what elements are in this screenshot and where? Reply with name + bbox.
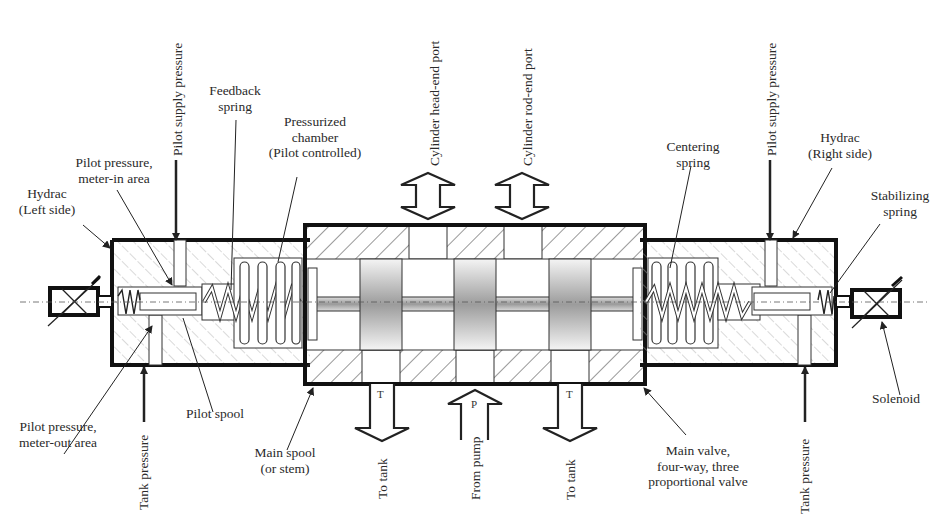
label-main-spool: Main spool (or stem) (248, 445, 322, 476)
label-cylinder-head-port: Cylinder head-end port (427, 41, 442, 166)
label-tank-pressure-left: Tank pressure (136, 435, 151, 510)
label-line: Feedback (203, 83, 267, 99)
label-line: Main spool (248, 445, 322, 461)
label-line: spring (203, 99, 267, 115)
label-line: Stabilizing (860, 188, 940, 204)
label-line: Pilot pressure, (58, 155, 170, 171)
label-to-tank-right: To tank (563, 459, 578, 500)
label-tank-pressure-right: Tank pressure (797, 439, 812, 514)
label-line: Pilot pressure, (8, 419, 108, 435)
label-hydrac-right: Hydrac (Right side) (800, 130, 880, 161)
label-pilot-meter-out: Pilot pressure, meter-out area (8, 419, 108, 450)
label-pressurized-chamber: Pressurized chamber (Pilot controlled) (260, 114, 370, 161)
label-line: meter-out area (8, 435, 108, 451)
hydrac-left-body (48, 240, 310, 365)
label-to-tank-left: To tank (375, 458, 390, 499)
label-line: (Right side) (800, 146, 880, 162)
label-line: Pressurized (260, 114, 370, 130)
label-line: Hydrac (800, 130, 880, 146)
label-main-valve: Main valve, four-way, three proportional… (636, 443, 760, 490)
label-line: meter-in area (58, 171, 170, 187)
hydrac-right-body (640, 240, 902, 365)
label-line: (Left side) (12, 202, 82, 218)
label-pilot-spool: Pilot spool (180, 406, 250, 422)
label-hydrac-left: Hydrac (Left side) (12, 186, 82, 217)
label-from-pump: From pump (468, 437, 483, 500)
label-line: spring (860, 204, 940, 220)
label-feedback-spring: Feedback spring (203, 83, 267, 114)
label-line: Hydrac (12, 186, 82, 202)
label-line: spring (658, 155, 728, 171)
port-pump: P (471, 398, 477, 410)
label-centering-spring: Centering spring (658, 139, 728, 170)
label-line: Main valve, (636, 443, 760, 459)
label-pilot-meter-in: Pilot pressure, meter-in area (58, 155, 170, 186)
label-line: (Pilot controlled) (260, 145, 370, 161)
label-cylinder-rod-port: Cylinder rod-end port (520, 48, 535, 166)
label-line: Centering (658, 139, 728, 155)
label-line: (or stem) (248, 461, 322, 477)
label-pilot-supply-right: Pilot supply pressure (764, 43, 779, 156)
label-line: chamber (260, 130, 370, 146)
port-tank-right: T (566, 388, 573, 400)
label-pilot-supply-left: Pilot supply pressure (170, 43, 185, 156)
label-solenoid: Solenoid (866, 391, 926, 407)
label-stabilizing-spring: Stabilizing spring (860, 188, 940, 219)
port-tank-left: T (377, 388, 384, 400)
label-line: four-way, three (636, 459, 760, 475)
main-valve-body (305, 225, 645, 384)
label-line: proportional valve (636, 474, 760, 490)
